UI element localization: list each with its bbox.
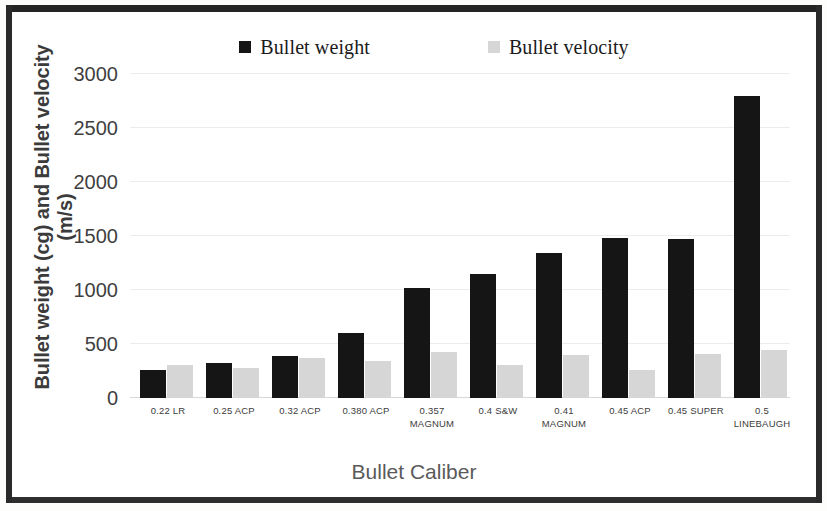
legend-item-bullet-velocity: Bullet velocity — [488, 36, 629, 59]
x-tick-label-line1: 0.41 — [554, 405, 573, 416]
bar-bullet-weight — [734, 96, 760, 398]
plot-area: 050010001500200025003000 0.22 LR0.25 ACP… — [130, 74, 790, 410]
y-tick-label-2500: 2500 — [74, 117, 119, 140]
bar-bullet-velocity — [563, 355, 589, 398]
y-axis-title: Bullet weight (cg) and Bullet velocity (… — [31, 27, 77, 407]
bar-group: 0.45 SUPER — [666, 74, 724, 398]
x-tick-label-line2: MAGNUM — [380, 417, 484, 430]
bar-bullet-weight — [206, 363, 232, 398]
bar-group: 0.25 ACP — [204, 74, 262, 398]
y-tick-label-3000: 3000 — [74, 63, 119, 86]
bar-bullet-weight — [668, 239, 694, 398]
bar-bullet-velocity — [629, 370, 655, 398]
bar-bullet-velocity — [431, 352, 457, 398]
bar-bullet-velocity — [695, 354, 721, 398]
frame-border-top — [6, 5, 822, 12]
bar-group: 0.32 ACP — [270, 74, 328, 398]
bar-bullet-weight — [338, 333, 364, 398]
legend-swatch-bullet-weight — [239, 41, 251, 53]
x-tick-label-line2: MAGNUM — [512, 417, 616, 430]
x-tick-label-line1: 0.22 LR — [151, 405, 186, 416]
chart-frame: Bullet weight Bullet velocity Bullet wei… — [0, 0, 827, 511]
bar-bullet-weight — [536, 253, 562, 398]
bar-bullet-velocity — [233, 368, 259, 398]
bar-group: 0.41MAGNUM — [534, 74, 592, 398]
y-tick-label-1500: 1500 — [74, 225, 119, 248]
x-tick-label-line1: 0.357 — [420, 405, 445, 416]
bar-group: 0.357MAGNUM — [402, 74, 460, 398]
bar-bullet-velocity — [167, 365, 193, 398]
bars-layer: 0.22 LR0.25 ACP0.32 ACP0.380 ACP0.357MAG… — [130, 74, 790, 410]
bar-group: 0.4 S&W — [468, 74, 526, 398]
x-tick-label-line1: 0.5 — [755, 405, 769, 416]
bar-group: 0.380 ACP — [336, 74, 394, 398]
bar-bullet-velocity — [299, 358, 325, 399]
bar-group: 0.22 LR — [138, 74, 196, 398]
bar-bullet-velocity — [761, 350, 787, 398]
bar-bullet-weight — [140, 370, 166, 398]
bar-bullet-weight — [602, 238, 628, 398]
bar-bullet-velocity — [497, 365, 523, 398]
y-tick-label-500: 500 — [85, 333, 118, 356]
y-tick-label-1000: 1000 — [74, 279, 119, 302]
bar-group: 0.45 ACP — [600, 74, 658, 398]
bar-bullet-weight — [272, 356, 298, 398]
x-axis-title: Bullet Caliber — [12, 460, 816, 484]
bar-bullet-weight — [470, 274, 496, 398]
bar-group: 0.5LINEBAUGH — [732, 74, 790, 398]
y-tick-label-2000: 2000 — [74, 171, 119, 194]
x-tick-label-line2: LINEBAUGH — [710, 417, 814, 430]
legend-swatch-bullet-velocity — [488, 41, 500, 53]
bar-bullet-weight — [404, 288, 430, 398]
bar-bullet-velocity — [365, 361, 391, 398]
chart-legend: Bullet weight Bullet velocity — [12, 30, 816, 64]
plot-region: Bullet weight Bullet velocity Bullet wei… — [12, 12, 816, 497]
legend-label-bullet-weight: Bullet weight — [260, 36, 370, 59]
frame-border-right — [816, 5, 822, 503]
x-tick-label: 0.5LINEBAUGH — [710, 404, 814, 430]
legend-label-bullet-velocity: Bullet velocity — [509, 36, 629, 59]
frame-border-bottom — [6, 497, 822, 503]
legend-item-bullet-weight: Bullet weight — [239, 36, 370, 59]
